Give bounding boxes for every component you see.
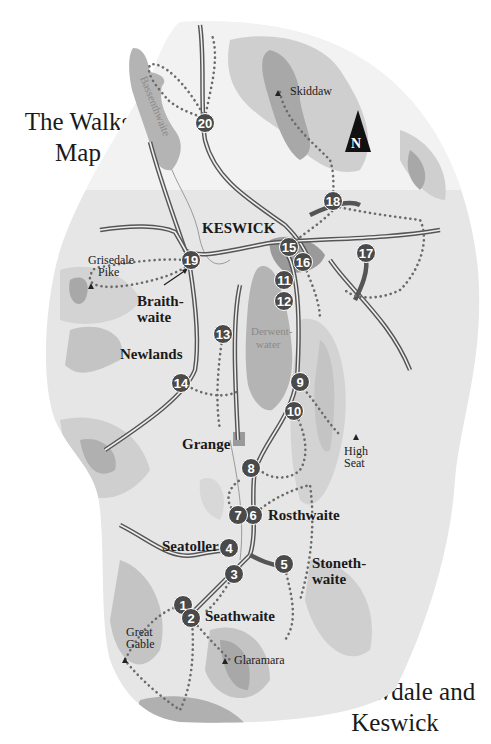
walk-marker-19[interactable]: 19 (182, 251, 201, 270)
stonethwaite-label-1: Stoneth- (312, 555, 366, 571)
walk-marker-number: 4 (225, 541, 233, 556)
walk-marker-12[interactable]: 12 (275, 292, 294, 311)
terrain (0, 0, 491, 744)
walk-marker-number: 3 (230, 567, 237, 582)
walk-marker-number: 14 (174, 376, 189, 391)
high-seat-label-2: Seat (344, 456, 365, 470)
keswick-label: KESWICK (202, 220, 276, 236)
walk-marker-5[interactable]: 5 (275, 555, 294, 574)
walk-marker-14[interactable]: 14 (172, 374, 191, 393)
rosthwaite-label: Rosthwaite (268, 507, 340, 523)
walk-marker-8[interactable]: 8 (242, 459, 261, 478)
walk-marker-16[interactable]: 16 (294, 253, 313, 272)
walk-marker-number: 17 (359, 246, 373, 261)
walk-marker-number: 20 (198, 116, 212, 131)
walk-marker-3[interactable]: 3 (225, 565, 244, 584)
walk-marker-number: 11 (277, 273, 291, 288)
grisedale-pike-label-2: Pike (98, 265, 119, 279)
grange-label: Grange (182, 436, 231, 452)
walk-marker-4[interactable]: 4 (220, 539, 239, 558)
walk-marker-11[interactable]: 11 (275, 271, 294, 290)
derwentwater-label-1: Derwent- (251, 325, 293, 337)
walk-marker-20[interactable]: 20 (196, 114, 215, 133)
stonethwaite-label-2: waite (312, 571, 346, 587)
walks-map: Bassenthwaite Derwent- water (0, 0, 491, 744)
walk-marker-number: 10 (287, 404, 301, 419)
walk-marker-number: 16 (296, 255, 310, 270)
great-gable-label-2: Gable (126, 637, 155, 651)
glaramara-label: Glaramara (234, 653, 285, 667)
walk-marker-number: 7 (234, 508, 241, 523)
braithwaite-label-1: Braith- (137, 293, 184, 309)
walk-marker-10[interactable]: 10 (285, 402, 304, 421)
walk-marker-7[interactable]: 7 (229, 506, 248, 525)
walk-marker-number: 18 (326, 194, 340, 209)
walk-marker-number: 9 (296, 375, 303, 390)
walk-marker-18[interactable]: 18 (324, 192, 343, 211)
walk-marker-number: 12 (277, 294, 291, 309)
skiddaw-label: Skiddaw (290, 84, 332, 98)
seatoller-label: Seatoller (162, 538, 219, 554)
walk-marker-9[interactable]: 9 (291, 373, 310, 392)
walk-marker-number: 15 (282, 240, 296, 255)
seathwaite-label: Seathwaite (205, 608, 275, 624)
braithwaite-label-2: waite (137, 309, 171, 325)
walk-marker-number: 2 (187, 611, 194, 626)
walk-marker-number: 5 (280, 557, 287, 572)
walk-marker-2[interactable]: 2 (182, 609, 201, 628)
walk-marker-17[interactable]: 17 (357, 244, 376, 263)
walk-marker-number: 6 (249, 508, 256, 523)
newlands-label: Newlands (120, 346, 183, 362)
derwentwater-label-2: water (256, 338, 281, 350)
walk-marker-number: 13 (216, 327, 230, 342)
north-label: N (351, 136, 361, 151)
walk-marker-number: 8 (247, 461, 254, 476)
walk-marker-13[interactable]: 13 (214, 325, 233, 344)
walk-marker-number: 19 (184, 253, 198, 268)
